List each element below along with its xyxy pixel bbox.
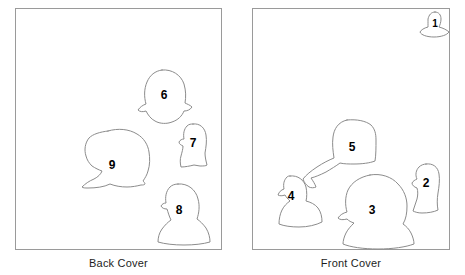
panel-back-cover bbox=[15, 8, 222, 250]
panel-front-cover bbox=[252, 8, 450, 250]
caption-front-cover: Front Cover bbox=[252, 256, 450, 270]
figure-root: 6 7 9 8 1 bbox=[0, 0, 465, 275]
caption-back-cover: Back Cover bbox=[15, 256, 222, 270]
